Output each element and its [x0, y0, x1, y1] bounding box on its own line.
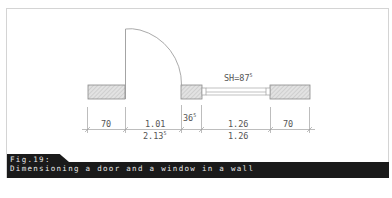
extension-lines — [88, 105, 310, 133]
dim-wall-middle: 365 — [183, 112, 196, 123]
window-sill-height-label: SH=875 — [224, 72, 253, 83]
dim-window-rough-opening: 1.26 — [228, 131, 248, 141]
dim-window-width: 1.26 — [228, 119, 248, 129]
figure-label: Fig.19: — [10, 155, 51, 164]
figure-caption-text: Dimensioning a door and a window in a wa… — [10, 164, 254, 173]
dim-wall-right: 70 — [283, 119, 293, 129]
dimension-line — [82, 127, 315, 132]
wall-middle — [181, 85, 202, 99]
wall-left — [88, 85, 125, 99]
wall-right — [270, 85, 310, 99]
dim-wall-left: 70 — [101, 119, 111, 129]
door-symbol — [126, 29, 182, 99]
dim-door-rough-opening: 2.135 — [143, 130, 167, 141]
dim-door-width: 1.01 — [145, 119, 165, 129]
window-symbol — [202, 88, 270, 95]
dimension-labels-row1: 70 1.01 365 1.26 70 — [101, 112, 293, 129]
dimension-labels-row2: 2.135 1.26 — [143, 130, 248, 141]
